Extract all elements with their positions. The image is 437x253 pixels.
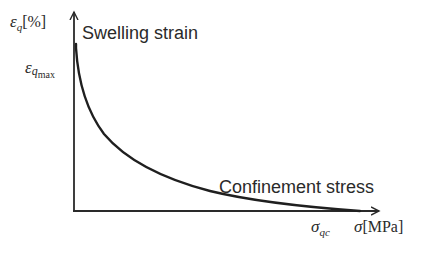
y-axis-title: Swelling strain	[82, 23, 198, 43]
x-axis-label: σ[MPa]	[354, 217, 403, 236]
y-axis-label: εq[%]	[10, 12, 46, 33]
x-tick-label-qc: σqc	[311, 217, 330, 238]
swelling-strain-chart: εq[%] Swelling strain εqmax Confinement …	[0, 0, 437, 253]
y-tick-label-max: εqmax	[25, 58, 55, 80]
curve-label: Confinement stress	[219, 177, 374, 197]
